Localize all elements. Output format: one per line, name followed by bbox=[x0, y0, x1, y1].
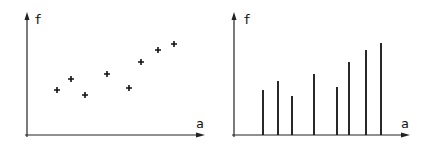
plus-marker-icon bbox=[126, 85, 132, 91]
plus-marker-icon bbox=[104, 71, 110, 77]
plus-marker-icon bbox=[54, 87, 60, 93]
x-axis-label: a bbox=[196, 116, 204, 131]
x-axis-arrow-icon bbox=[401, 133, 410, 138]
scatter-chart: af bbox=[25, 12, 206, 138]
plus-marker-icon bbox=[171, 41, 177, 47]
plus-marker-icon bbox=[68, 76, 74, 82]
x-axis-arrow-icon bbox=[196, 133, 205, 138]
plus-marker-icon bbox=[155, 47, 161, 53]
plus-marker-icon bbox=[82, 92, 88, 98]
y-axis-arrow-icon bbox=[25, 12, 30, 20]
y-axis-label: f bbox=[243, 12, 251, 27]
chart-canvas: af af bbox=[0, 0, 433, 147]
y-axis-arrow-icon bbox=[232, 12, 237, 20]
stem-chart: af bbox=[232, 12, 411, 138]
x-axis-label: a bbox=[401, 116, 409, 131]
plus-marker-icon bbox=[138, 59, 144, 65]
y-axis-label: f bbox=[34, 12, 42, 27]
